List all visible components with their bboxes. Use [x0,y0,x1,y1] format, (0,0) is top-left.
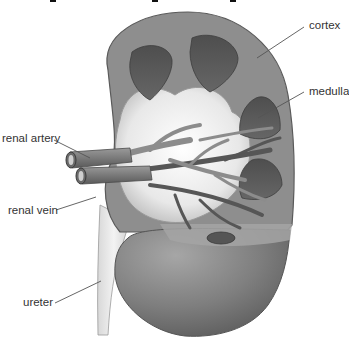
label-cortex: cortex [309,20,340,32]
label-medulla: medulla [309,86,349,98]
label-ureter: ureter [23,297,53,309]
renal-vein-leader [56,197,96,210]
label-renal-artery: renal artery [2,133,60,145]
lower-calyx-oval [207,232,235,244]
ureter-leader [55,281,101,303]
title-fragment [50,0,236,2]
label-renal-vein: renal vein [8,205,58,217]
cortex-leader [257,27,304,58]
